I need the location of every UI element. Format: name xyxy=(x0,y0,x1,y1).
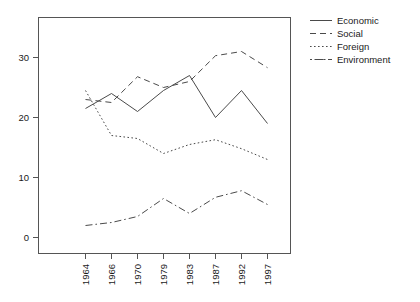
x-tick-label-1966: 1966 xyxy=(106,264,117,285)
legend-label-economic: Economic xyxy=(337,15,379,26)
y-tick-label-0: 0 xyxy=(24,232,29,243)
x-tick-label-1987: 1987 xyxy=(210,264,221,285)
legend-label-environment: Environment xyxy=(337,54,391,65)
x-tick-label-1997: 1997 xyxy=(262,264,273,285)
y-tick-label-20: 20 xyxy=(18,112,29,123)
legend-label-foreign: Foreign xyxy=(337,41,369,52)
x-tick-label-1970: 1970 xyxy=(132,264,143,285)
x-tick-label-1964: 1964 xyxy=(80,264,91,285)
chart-svg: 0 10 20 30 1964 1966 1970 1979 1983 1987… xyxy=(0,0,420,302)
legend-label-social: Social xyxy=(337,28,363,39)
y-tick-label-30: 30 xyxy=(18,52,29,63)
y-tick-label-10: 10 xyxy=(18,172,29,183)
x-tick-label-1992: 1992 xyxy=(236,264,247,285)
x-tick-label-1983: 1983 xyxy=(184,264,195,285)
x-tick-label-1979: 1979 xyxy=(158,264,169,285)
line-chart-figure: 0 10 20 30 1964 1966 1970 1979 1983 1987… xyxy=(0,0,420,302)
